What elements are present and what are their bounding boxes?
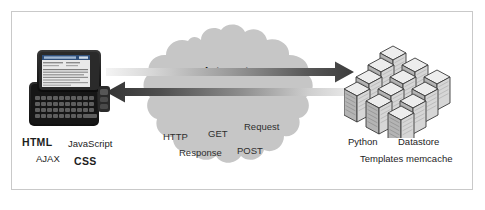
label-html: HTML [22,136,52,148]
phone-side-controls-icon [98,86,110,112]
architecture-diagram: Internet HTTP GET Request Response POST [0,0,485,210]
label-datastore: Datastore [398,136,439,147]
client-device [28,48,112,134]
label-templates: Templates [360,153,403,164]
traffic-arrows [104,60,356,108]
protocol-label-request: Request [244,121,279,132]
request-arrow-right-icon [106,62,354,83]
response-arrow-left-icon [106,82,354,103]
client-technology-labels: HTML JavaScript AJAX CSS [18,136,136,182]
protocol-label-get: GET [208,128,228,139]
figure-caption [12,198,212,209]
phone-screen-icon [42,55,90,87]
server-cluster [344,44,458,138]
protocol-label-http: HTTP [163,131,188,142]
server-technology-labels: Python Datastore Templates memcache [344,136,474,182]
label-ajax: AJAX [36,153,60,164]
label-javascript: JavaScript [68,138,112,149]
label-python: Python [348,136,378,147]
label-memcache: memcache [406,153,452,164]
protocol-label-post: POST [237,145,263,156]
protocol-label-response: Response [179,147,222,158]
label-css: CSS [74,155,97,167]
